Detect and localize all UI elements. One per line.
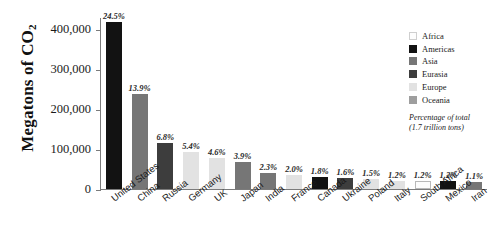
legend-item: Americas — [409, 43, 499, 55]
legend-item-label: Oceania — [422, 95, 450, 105]
legend-item-label: Asia — [422, 56, 438, 66]
y-axis-tick — [96, 150, 101, 151]
legend-footnote: Percentage of total (1.7 trillion tons) — [409, 113, 499, 134]
legend-swatch-icon — [409, 45, 417, 53]
legend-item: Eurasia — [409, 68, 499, 80]
bar-value-label: 13.9% — [120, 83, 160, 93]
y-axis-tick-label: 200,000 — [29, 102, 91, 117]
legend-swatch-icon — [409, 83, 417, 91]
legend-item: Oceania — [409, 94, 499, 106]
y-axis-tick — [96, 110, 101, 111]
bar-value-label: 3.9% — [223, 151, 263, 161]
legend-item-label: Africa — [422, 31, 444, 41]
legend-swatch-icon — [409, 32, 417, 40]
y-axis-tick — [96, 70, 101, 71]
legend-footnote-line1: Percentage of total — [409, 113, 499, 124]
legend-entries: AfricaAmericasAsiaEurasiaEuropeOceania — [409, 30, 499, 106]
y-axis-line — [100, 18, 101, 190]
legend-swatch-icon — [409, 96, 417, 104]
y-axis-tick-label: 0 — [29, 182, 91, 197]
legend-item-label: Americas — [422, 44, 455, 54]
y-axis-tick-label: 100,000 — [29, 142, 91, 157]
bar-value-label: 6.8% — [145, 132, 185, 142]
co2-emissions-bar-chart: Megatons of CO2 0100,000200,000300,00040… — [0, 0, 499, 245]
bar-value-label: 24.5% — [94, 11, 134, 21]
legend-swatch-icon — [409, 57, 417, 65]
legend-swatch-icon — [409, 70, 417, 78]
legend-item-label: Eurasia — [422, 69, 448, 79]
y-axis-tick — [96, 30, 101, 31]
y-axis-tick — [96, 190, 101, 191]
legend-item: Africa — [409, 30, 499, 42]
legend-item: Asia — [409, 56, 499, 68]
bar — [106, 22, 122, 189]
legend-item: Europe — [409, 81, 499, 93]
y-axis-tick-label: 300,000 — [29, 62, 91, 77]
y-axis-title-text: Megatons of CO — [18, 30, 37, 152]
legend-footnote-line2: (1.7 trillion tons) — [409, 123, 499, 134]
y-axis-tick-label: 400,000 — [29, 22, 91, 37]
legend-item-label: Europe — [422, 82, 447, 92]
legend: AfricaAmericasAsiaEurasiaEuropeOceania P… — [409, 30, 499, 134]
